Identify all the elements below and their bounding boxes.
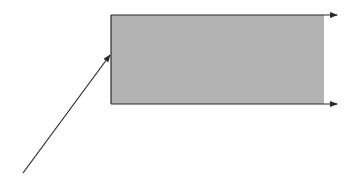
diagonal-pointer-arrow [23,55,110,173]
shaded-rectangle [111,15,324,104]
diagram-canvas [0,0,353,185]
